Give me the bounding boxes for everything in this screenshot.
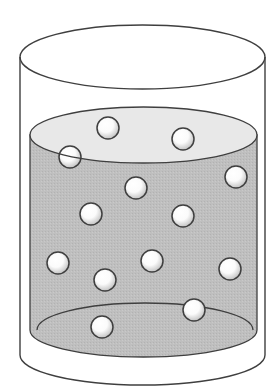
particle: [94, 269, 116, 291]
particle: [47, 252, 69, 274]
particle: [91, 316, 113, 338]
particle: [80, 203, 102, 225]
particle: [219, 258, 241, 280]
particle: [225, 166, 247, 188]
particle: [97, 117, 119, 139]
container-rim: [20, 25, 265, 89]
liquid-body: [30, 135, 257, 357]
particle: [172, 205, 194, 227]
particle: [125, 177, 147, 199]
particle: [141, 250, 163, 272]
beaker-diagram: [0, 0, 276, 390]
particle: [183, 299, 205, 321]
particle: [172, 128, 194, 150]
